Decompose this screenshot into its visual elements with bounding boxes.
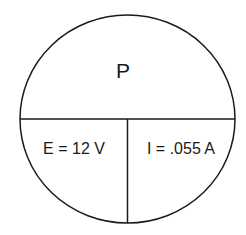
current-label: I = .055 A — [128, 140, 234, 158]
voltage-label: E = 12 V — [21, 140, 127, 158]
power-label: P — [0, 59, 246, 83]
power-circle-diagram — [0, 0, 246, 235]
